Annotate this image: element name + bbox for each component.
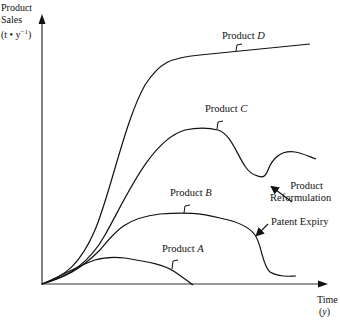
bracket-b bbox=[184, 205, 190, 213]
curve-product-c bbox=[42, 128, 316, 284]
patent-expiry-arrow bbox=[257, 224, 268, 235]
x-axis-arrow-icon bbox=[318, 281, 328, 288]
label-product-b: Product B bbox=[170, 187, 212, 199]
x-axis-label: Time (y) bbox=[317, 294, 338, 318]
bracket-c bbox=[217, 121, 223, 129]
curve-product-a bbox=[42, 257, 193, 285]
bracket-d bbox=[236, 44, 242, 51]
label-product-a: Product A bbox=[162, 243, 204, 255]
label-product-c: Product C bbox=[205, 103, 247, 115]
y-axis-label: Product Sales (t • y−1) bbox=[1, 2, 32, 41]
label-reformulation: Product Reformulation bbox=[282, 180, 331, 204]
product-lifecycle-diagram bbox=[0, 0, 340, 321]
bracket-a bbox=[172, 260, 178, 269]
y-axis-arrow-icon bbox=[39, 14, 46, 24]
label-product-d: Product D bbox=[222, 30, 265, 42]
label-patent-expiry: Patent Expiry bbox=[271, 216, 328, 228]
